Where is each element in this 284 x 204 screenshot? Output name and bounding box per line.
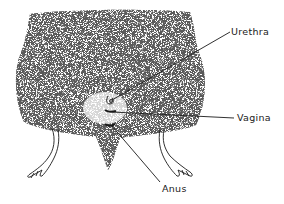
left-hind-foot	[28, 128, 59, 178]
right-hind-foot	[159, 130, 192, 176]
urethra-label: Urethra	[231, 27, 269, 37]
body-fur	[16, 10, 205, 170]
vagina-label: Vagina	[237, 113, 271, 123]
anus-label: Anus	[162, 184, 187, 194]
